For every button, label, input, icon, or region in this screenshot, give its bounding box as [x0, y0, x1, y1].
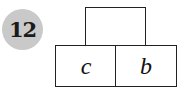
- bottom-right-box: b: [115, 45, 177, 87]
- top-box: [85, 7, 146, 47]
- bottom-left-box: c: [55, 45, 117, 87]
- bottom-right-box-label: b: [140, 53, 152, 80]
- bottom-left-box-label: c: [81, 53, 92, 80]
- problem-number-badge: 12: [2, 9, 43, 50]
- problem-number: 12: [9, 17, 36, 42]
